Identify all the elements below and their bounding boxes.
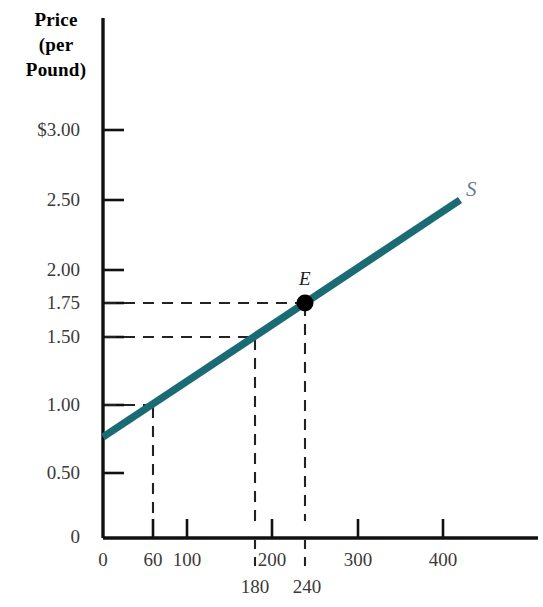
supply-curve-line	[103, 200, 460, 437]
equilibrium-point-marker	[297, 295, 314, 312]
supply-curve-figure: Price (per Pound) $3.00 2.50 2.00 1.75 1…	[0, 0, 543, 607]
plot-area	[0, 0, 543, 607]
